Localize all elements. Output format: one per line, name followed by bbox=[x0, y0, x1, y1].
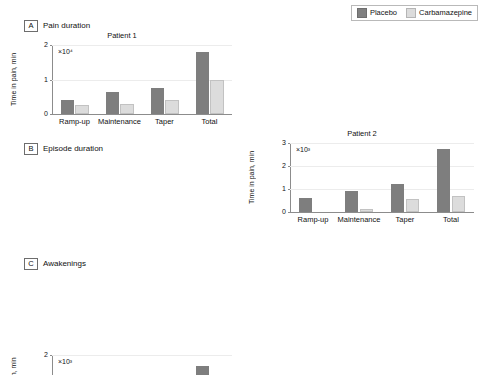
legend: Placebo Carbamazepine bbox=[351, 5, 478, 21]
gridline bbox=[52, 45, 232, 46]
y-tick-mark bbox=[288, 212, 290, 213]
bar-placebo-maintenance bbox=[106, 92, 120, 114]
x-tick-label-maintenance: Maintenance bbox=[97, 118, 142, 126]
bar-carbamazepine-maintenance bbox=[360, 209, 374, 212]
bar-placebo-ramp-up bbox=[299, 198, 313, 212]
chart-panel-b-patient-1: Episode duration, min012×10³Ramp-upMaint… bbox=[8, 351, 236, 375]
y-axis-label: Time in pain, min bbox=[248, 143, 255, 212]
bar-carbamazepine-taper bbox=[165, 100, 179, 114]
legend-swatch-placebo bbox=[357, 8, 367, 18]
y-axis-line bbox=[290, 143, 291, 212]
axis-multiplier: ×10⁴ bbox=[58, 48, 73, 55]
panel-header-c: C Awakenings bbox=[24, 258, 86, 270]
panel-letter-c: C bbox=[24, 258, 38, 270]
y-tick-label: 0 bbox=[30, 110, 48, 117]
bar-placebo-taper bbox=[391, 184, 405, 212]
gridline bbox=[290, 143, 474, 144]
y-axis-label: Time in pain, min bbox=[10, 45, 17, 114]
y-tick-mark bbox=[288, 166, 290, 167]
y-tick-label: 1 bbox=[268, 185, 286, 192]
y-tick-mark bbox=[288, 143, 290, 144]
gridline bbox=[52, 355, 232, 356]
legend-label-carbamazepine: Carbamazepine bbox=[419, 9, 472, 17]
x-tick-label-taper: Taper bbox=[382, 216, 428, 224]
x-axis-line bbox=[290, 212, 474, 213]
chart-panel-a-patient-2: Patient 2Time in pain, min0123×10³Ramp-u… bbox=[246, 130, 478, 228]
x-tick-label-ramp-up: Ramp-up bbox=[290, 216, 336, 224]
bar-carbamazepine-total bbox=[210, 80, 224, 114]
y-tick-mark bbox=[50, 80, 52, 81]
legend-label-placebo: Placebo bbox=[370, 9, 397, 17]
y-tick-mark bbox=[50, 114, 52, 115]
panel-letter-b: B bbox=[24, 143, 38, 155]
axis-multiplier: ×10³ bbox=[58, 358, 72, 365]
y-tick-label: 2 bbox=[30, 351, 48, 358]
x-tick-label-total: Total bbox=[428, 216, 474, 224]
x-tick-label-taper: Taper bbox=[142, 118, 187, 126]
x-tick-label-total: Total bbox=[187, 118, 232, 126]
bar-carbamazepine-maintenance bbox=[120, 104, 134, 114]
legend-item-carbamazepine: Carbamazepine bbox=[406, 8, 472, 18]
x-tick-label-ramp-up: Ramp-up bbox=[52, 118, 97, 126]
panel-header-b: B Episode duration bbox=[24, 143, 103, 155]
y-tick-label: 2 bbox=[30, 41, 48, 48]
bar-placebo-ramp-up bbox=[61, 100, 75, 114]
x-tick-label-maintenance: Maintenance bbox=[336, 216, 382, 224]
bar-carbamazepine-taper bbox=[406, 199, 420, 212]
chart-title: Patient 1 bbox=[8, 32, 236, 40]
legend-swatch-carbamazepine bbox=[406, 8, 416, 18]
y-tick-label: 1 bbox=[30, 76, 48, 83]
axis-multiplier: ×10³ bbox=[296, 146, 310, 153]
bar-placebo-taper bbox=[151, 88, 165, 114]
panel-header-a: A Pain duration bbox=[24, 20, 90, 32]
bar-placebo-total bbox=[196, 366, 210, 375]
chart-panel-a-patient-1: Patient 1Time in pain, min012×10⁴Ramp-up… bbox=[8, 32, 236, 130]
legend-item-placebo: Placebo bbox=[357, 8, 397, 18]
bar-placebo-total bbox=[437, 149, 451, 212]
panel-letter-a: A bbox=[24, 20, 38, 32]
bar-carbamazepine-total bbox=[452, 196, 466, 212]
y-tick-mark bbox=[50, 45, 52, 46]
y-tick-label: 0 bbox=[268, 208, 286, 215]
y-tick-mark bbox=[50, 355, 52, 356]
y-tick-mark bbox=[288, 189, 290, 190]
x-axis-line bbox=[52, 114, 232, 115]
figure-root: { "legend": { "entries": [ {"label": "Pl… bbox=[0, 0, 482, 375]
panel-title-a: Pain duration bbox=[43, 22, 90, 30]
bar-placebo-total bbox=[196, 52, 210, 114]
y-axis-line bbox=[52, 355, 53, 375]
bar-carbamazepine-ramp-up bbox=[75, 105, 89, 114]
y-tick-label: 3 bbox=[268, 139, 286, 146]
panel-title-c: Awakenings bbox=[43, 260, 86, 268]
y-tick-label: 2 bbox=[268, 162, 286, 169]
bar-placebo-maintenance bbox=[345, 191, 359, 212]
chart-title: Patient 2 bbox=[246, 130, 478, 138]
panel-title-b: Episode duration bbox=[43, 145, 103, 153]
y-axis-label: Episode duration, min bbox=[10, 355, 17, 375]
